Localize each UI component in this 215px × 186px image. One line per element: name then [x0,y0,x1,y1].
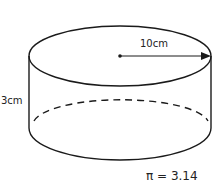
bottom-back-arc-dashed [34,100,208,121]
radius-arrowhead-icon [201,52,211,60]
bottom-front-arc [29,128,211,160]
pi-note: π = 3.14 [146,169,198,183]
radius-label: 10cm [140,38,168,49]
height-label: 3cm [1,95,23,106]
cylinder-diagram: 10cm 3cm π = 3.14 [0,0,215,186]
